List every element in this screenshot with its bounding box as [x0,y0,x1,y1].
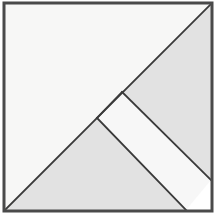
tangram-canvas [0,0,216,215]
tangram-figure [0,0,216,215]
